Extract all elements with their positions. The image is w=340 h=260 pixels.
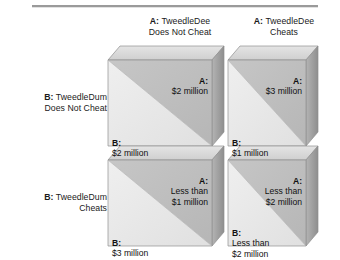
cell-r2c1-payoff-b: B: $3 million [112,228,208,259]
cell-r1c1-b-value: $2 million [112,148,148,158]
cell-r2c2-payoff-b: B: Less than $2 million [232,218,322,259]
cell-r1c1-payoff-a: A: $2 million [120,66,208,97]
cell-r2c1-b-label: B: [112,238,121,248]
cell-r2c1-a-label: A: [199,176,208,186]
cell-r1c1-payoff-b: B: $2 million [112,128,208,159]
cell-r1c2-payoff-a: A: $3 million [218,66,302,97]
cell-r1c2-payoff-b: B: $1 million [232,128,322,159]
cell-r1c2-a-label: A: [293,76,302,86]
cell-r1c2-b-label: B: [232,138,241,148]
cell-r2c1-b-value: $3 million [112,248,148,258]
cell-r1c1-a-value: $2 million [172,86,208,96]
cell-r1c2-a-value: $3 million [266,86,302,96]
cell-r2c1-payoff-a: A: Less than $1 million [120,166,208,207]
cell-r2c2-payoff-a: A: Less than $2 million [218,166,302,207]
cell-r1c2-b-value: $1 million [232,148,268,158]
cell-r1c1-a-label: A: [199,76,208,86]
cell-r2c2-a-value: Less than $2 million [265,186,302,206]
cell-r2c1-a-value: Less than $1 million [171,186,208,206]
cell-r1c1-b-label: B: [112,138,121,148]
cell-r2c2-b-label: B: [232,228,241,238]
cell-r2c2-b-value: Less than $2 million [232,238,269,258]
diagram-canvas: A: TweedleDee Does Not Cheat A: TweedleD… [0,0,340,260]
cell-r2c2-a-label: A: [293,176,302,186]
